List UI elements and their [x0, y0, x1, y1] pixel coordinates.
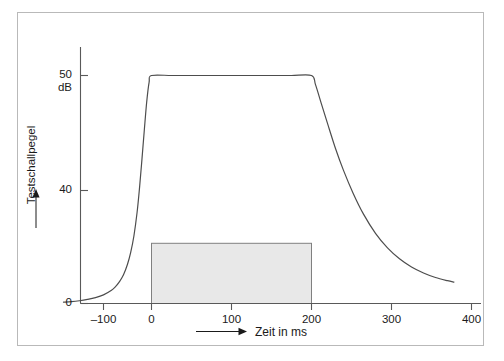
xtick-label-0: 0	[132, 313, 171, 326]
x-axis-ticks	[104, 304, 472, 311]
ytick-unit-label-db: dB	[40, 81, 72, 94]
x-axis-title: Zeit in ms	[255, 325, 307, 339]
y-axis-title: Testschallpegel	[25, 126, 37, 205]
xtick-label-400: 400	[449, 313, 494, 326]
x-axis-title-wrap: Zeit in ms	[195, 325, 307, 339]
ytick-label-50: 50	[40, 68, 72, 81]
y-axis-title-wrap: Testschallpegel	[22, 105, 40, 225]
xtick-label-300: 300	[369, 313, 414, 326]
ytick-label-40: 40	[40, 183, 72, 196]
y-axis-ticks	[81, 76, 89, 304]
chart-figure: 50 dB 40 0 –100 0 100 200 300 400 Testsc…	[0, 0, 504, 361]
measurement-window-rect	[152, 243, 312, 303]
plot-area	[0, 0, 504, 361]
ytick-label-0: 0	[40, 296, 72, 309]
xtick-label-minus100: –100	[79, 313, 128, 326]
